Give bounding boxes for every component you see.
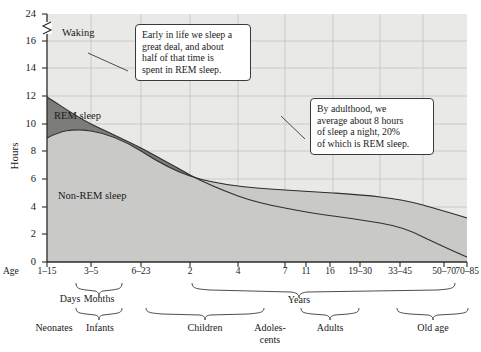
x-tick-2: 6–23 <box>127 266 155 276</box>
adult-callout-line-2: average about 8 hours <box>317 115 427 127</box>
adulthood-callout: By adulthood, we average about 8 hours o… <box>310 98 434 155</box>
x-tick-11: 70–85 <box>453 266 481 276</box>
early-callout-line-2: great deal, and about <box>142 41 244 53</box>
sleep-stages-area-chart: Hours 24 16 14 12 10 8 6 4 2 0 Waking RE… <box>0 0 481 352</box>
stage-group-adolescents-line1: Adoles- <box>240 322 300 333</box>
y-tick-16: 16 <box>14 35 36 46</box>
y-tick-12: 12 <box>14 90 36 101</box>
y-tick-24: 24 <box>14 8 36 19</box>
early-callout-line-1: Early in life we sleep a <box>142 29 244 41</box>
x-tick-0: 1–15 <box>33 266 61 276</box>
x-tick-4: 4 <box>227 266 249 276</box>
stage-group-adults: Adults <box>305 322 355 333</box>
unit-group-years: Years <box>275 294 323 305</box>
region-label-waking: Waking <box>62 27 94 38</box>
x-tick-9: 33–45 <box>386 266 414 276</box>
x-tick-6: 11 <box>295 266 317 276</box>
stage-group-oldage: Old age <box>405 322 461 333</box>
x-tick-1: 3–5 <box>77 266 105 276</box>
stage-group-infants: Infants <box>72 322 128 333</box>
unit-group-months: Months <box>70 293 128 304</box>
unit-brackets <box>76 283 455 298</box>
x-tick-3: 2 <box>179 266 201 276</box>
region-label-rem: REM sleep <box>54 110 101 121</box>
y-axis-ticks <box>42 14 47 262</box>
adult-callout-line-3: of sleep a night, 20% <box>317 126 427 138</box>
early-callout-line-4: spent in REM sleep. <box>142 64 244 76</box>
x-tick-7: 16 <box>319 266 341 276</box>
region-label-nonrem: Non-REM sleep <box>58 190 127 201</box>
y-axis-break-symbol <box>43 22 52 34</box>
y-tick-6: 6 <box>14 173 36 184</box>
stage-brackets <box>76 308 468 320</box>
y-tick-8: 8 <box>14 145 36 156</box>
y-tick-14: 14 <box>14 62 36 73</box>
adult-callout-line-1: By adulthood, we <box>317 103 427 115</box>
x-axis-label-age: Age <box>3 266 19 276</box>
adult-callout-line-4: of which is REM sleep. <box>317 138 427 150</box>
x-tick-8: 19–30 <box>346 266 374 276</box>
early-callout-line-3: half of that time is <box>142 52 244 64</box>
y-tick-2: 2 <box>14 228 36 239</box>
y-tick-10: 10 <box>14 118 36 129</box>
stage-group-children: Children <box>175 322 235 333</box>
y-tick-4: 4 <box>14 201 36 212</box>
x-tick-5: 7 <box>274 266 296 276</box>
stage-group-adolescents-line2: cents <box>240 334 300 345</box>
early-life-callout: Early in life we sleep a great deal, and… <box>135 24 251 81</box>
